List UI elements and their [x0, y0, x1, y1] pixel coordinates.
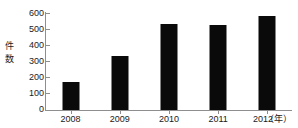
x-axis-unit-label: （年） [265, 114, 292, 125]
bar-series [46, 13, 292, 110]
y-axis-label-400: 400 [2, 41, 44, 50]
bar-slot-2012 [243, 13, 292, 110]
bar-2011 [210, 25, 227, 110]
bar-slot-2009 [95, 13, 144, 110]
bar-slot-2010 [144, 13, 193, 110]
y-axis-label-600: 600 [2, 9, 44, 18]
y-axis-label-500: 500 [2, 25, 44, 34]
bar-slot-2011 [194, 13, 243, 110]
y-axis-labels: 600 500 400 300 200 100 0 [0, 0, 44, 128]
bar-2008 [62, 82, 79, 110]
y-axis-label-100: 100 [2, 89, 44, 98]
bar-2010 [160, 24, 177, 110]
bar-2012 [259, 16, 276, 110]
bar-2009 [111, 56, 128, 110]
y-axis-label-0: 0 [2, 105, 44, 114]
y-axis-label-200: 200 [2, 73, 44, 82]
y-axis-label-300: 300 [2, 57, 44, 66]
bar-slot-2008 [46, 13, 95, 110]
bar-chart: 件 数 600 500 400 300 200 100 0 2008 2009 … [0, 0, 298, 128]
